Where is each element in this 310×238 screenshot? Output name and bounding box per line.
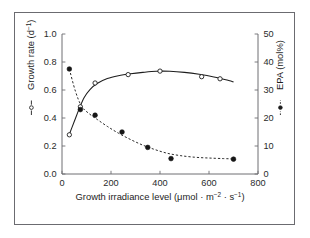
- x-tick-label: 600: [201, 178, 216, 188]
- y-tick-label-right: 20: [264, 113, 274, 123]
- chart-canvas: 0200400600800 0.00.20.40.60.81.0 0102030…: [0, 0, 310, 238]
- growth-rate-point: [218, 77, 222, 81]
- x-tick-label: 0: [59, 178, 64, 188]
- y-tick-label-left: 0.0: [44, 169, 57, 179]
- y-axis-right-title-group: EPA (mol%): [274, 40, 285, 115]
- epa-point: [145, 145, 150, 150]
- legend-growth-rate-marker: [30, 101, 34, 116]
- epa-markers: [67, 67, 236, 162]
- y-axis-left-tick-labels: 0.00.20.40.60.81.0: [44, 29, 57, 179]
- x-tick-label: 200: [103, 178, 118, 188]
- epa-point: [78, 107, 83, 112]
- growth-rate-curve: [69, 71, 234, 135]
- growth-rate-point: [158, 69, 162, 73]
- x-axis-tick-labels: 0200400600800: [59, 178, 265, 188]
- growth-rate-markers: [67, 69, 222, 137]
- growth-rate-point: [93, 81, 97, 85]
- x-tick-label: 400: [152, 178, 167, 188]
- growth-rate-point: [67, 133, 71, 137]
- y-axis-left-ticks: [62, 34, 65, 174]
- y-axis-left-title-close: ): [25, 20, 36, 23]
- growth-rate-point: [126, 72, 130, 76]
- y-axis-right-tick-labels: 01020304050: [264, 29, 274, 179]
- y-tick-label-left: 0.2: [44, 141, 57, 151]
- y-tick-label-right: 40: [264, 57, 274, 67]
- y-tick-label-right: 50: [264, 29, 274, 39]
- epa-point: [169, 156, 174, 161]
- y-axis-left-title-group: Growth rate (d−1): [25, 20, 36, 115]
- axes-group: [62, 34, 258, 174]
- y-axis-left-title-main: Growth rate (d: [25, 30, 36, 90]
- y-tick-label-left: 1.0: [44, 29, 57, 39]
- x-axis-title-mid: · s: [221, 191, 234, 202]
- y-axis-right-title: EPA (mol%): [274, 40, 285, 90]
- epa-point: [231, 157, 236, 162]
- y-axis-right-ticks: [255, 34, 258, 174]
- epa-point: [93, 113, 98, 118]
- y-tick-label-left: 0.8: [44, 57, 57, 67]
- y-tick-label-right: 30: [264, 85, 274, 95]
- epa-point: [120, 130, 125, 135]
- epa-point: [67, 67, 72, 72]
- y-tick-label-left: 0.6: [44, 85, 57, 95]
- x-axis-title: Growth irradiance level (μmol · m−2 · s−…: [76, 191, 245, 202]
- y-axis-left-title: Growth rate (d−1): [25, 20, 36, 90]
- y-tick-label-left: 0.4: [44, 113, 57, 123]
- x-axis-title-close: ): [241, 191, 244, 202]
- growth-rate-point: [200, 75, 204, 79]
- y-tick-label-right: 10: [264, 141, 274, 151]
- x-axis-title-main: Growth irradiance level (μmol · m: [76, 191, 214, 202]
- legend-epa-marker: [279, 100, 283, 115]
- figure-root: 0200400600800 0.00.20.40.60.81.0 0102030…: [0, 0, 310, 238]
- y-tick-label-right: 0: [264, 169, 269, 179]
